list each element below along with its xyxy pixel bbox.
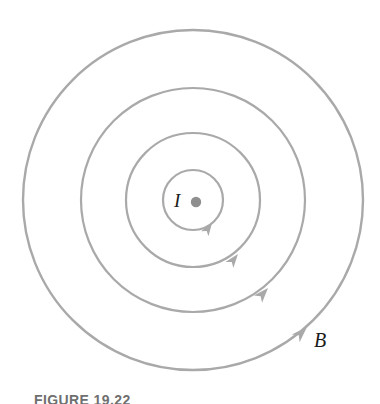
magnetic-field-label: B	[314, 330, 326, 350]
current-label: I	[174, 191, 180, 210]
figure-caption: FIGURE 19.22	[34, 392, 131, 404]
magnetic-field-figure: I B FIGURE 19.22	[0, 0, 380, 404]
field-direction-arrowheads	[201, 220, 311, 342]
current-out-of-page-dot	[191, 197, 201, 207]
